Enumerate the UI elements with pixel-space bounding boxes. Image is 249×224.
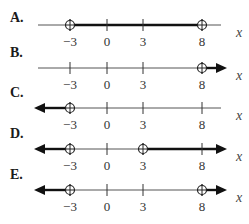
open-circle-icon — [66, 19, 75, 31]
option-c[interactable]: C.−3038x — [0, 83, 249, 125]
open-circle-icon — [198, 19, 207, 31]
tick-label: 8 — [199, 199, 206, 214]
tick-label: −3 — [63, 199, 77, 214]
option-a[interactable]: A.−3038x — [0, 0, 249, 42]
arrow-left-icon — [34, 103, 45, 113]
arrow-right-icon — [216, 63, 227, 73]
arrow-right-icon — [216, 144, 227, 154]
arrow-left-icon — [34, 185, 45, 195]
axis-variable: x — [235, 68, 243, 83]
open-circle-icon — [198, 62, 207, 74]
open-circle-icon — [198, 184, 207, 196]
option-b[interactable]: B.−3038x — [0, 43, 249, 85]
axis-variable: x — [235, 190, 243, 205]
open-circle-icon — [66, 184, 75, 196]
arrow-left-icon — [34, 144, 45, 154]
axis-variable: x — [235, 108, 243, 123]
open-circle-icon — [66, 102, 75, 114]
option-e[interactable]: E.−3038x — [0, 165, 249, 207]
arrow-right-icon — [216, 185, 227, 195]
tick-label: 0 — [104, 199, 111, 214]
axis-variable: x — [235, 149, 243, 164]
open-circle-icon — [139, 143, 148, 155]
open-circle-icon — [66, 143, 75, 155]
axis-variable: x — [235, 25, 243, 40]
option-d[interactable]: D.−3038x — [0, 124, 249, 166]
number-line: −3038x — [0, 165, 249, 224]
tick-label: 3 — [140, 199, 147, 214]
